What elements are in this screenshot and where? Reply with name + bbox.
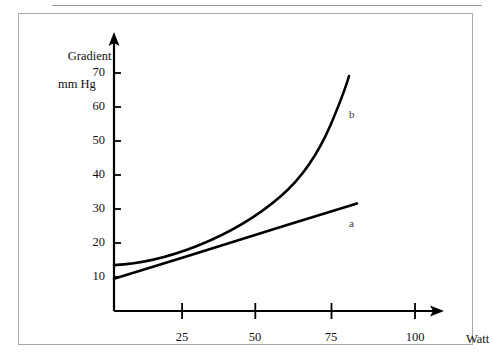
- page-top-rule: [52, 5, 482, 6]
- x-tick-label-100: 100: [400, 331, 430, 344]
- x-tick-label-25: 25: [167, 331, 197, 344]
- figure-page: Gradient mm Hg Watt 10 20 30 40 50 60 70…: [0, 0, 492, 358]
- y-tick-label-50: 50: [79, 134, 105, 147]
- y-axis-title-line2: mm Hg: [49, 77, 111, 91]
- x-axis-title: Watt: [466, 332, 489, 346]
- y-tick-label-40: 40: [79, 168, 105, 181]
- y-tick-label-30: 30: [79, 202, 105, 215]
- figure-frame: Gradient mm Hg Watt 10 20 30 40 50 60 70…: [18, 13, 473, 345]
- series-a-curve: [114, 204, 357, 279]
- curve-label-b: b: [349, 109, 355, 120]
- y-tick-label-20: 20: [79, 236, 105, 249]
- series-b-curve: [114, 76, 349, 265]
- y-tick-label-10: 10: [79, 270, 105, 283]
- y-axis-title-line1: Gradient: [68, 49, 112, 63]
- x-tick-label-50: 50: [240, 331, 270, 344]
- y-tick-label-70: 70: [79, 66, 105, 79]
- curve-label-a: a: [349, 218, 354, 229]
- y-tick-label-60: 60: [79, 100, 105, 113]
- data-curves: [114, 76, 357, 279]
- x-tick-label-75: 75: [316, 331, 346, 344]
- axes-group: [109, 32, 445, 317]
